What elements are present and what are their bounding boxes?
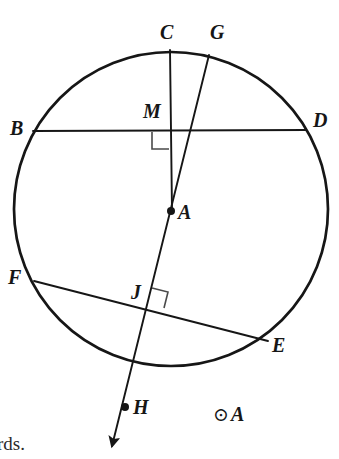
chord-bd [33,130,306,131]
circle-symbol-icon: ⊙ [213,405,229,424]
geometry-diagram [0,0,339,459]
point-label-f: F [8,267,21,287]
point-label-h: H [133,397,149,417]
circle-a-notation: ⊙ A [213,404,244,424]
right-angle-marker-j [152,288,168,308]
point-label-m: M [143,101,161,121]
page-text-fragment: rds. [0,434,25,453]
point-label-a: A [178,202,191,222]
point-label-b: B [10,118,23,138]
point-label-j: J [131,282,141,302]
right-angle-marker-m [152,132,169,149]
point-label-g: G [210,22,224,42]
point-dot-a [167,207,175,215]
circle-notation-label: A [231,404,244,424]
segment-ca [170,50,172,211]
point-dot-h [121,403,129,411]
point-label-c: C [160,22,173,42]
point-label-d: D [313,110,327,130]
point-label-e: E [272,335,285,355]
